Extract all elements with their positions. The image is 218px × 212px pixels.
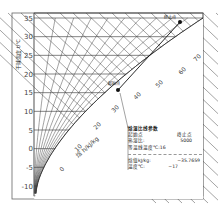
- start-point-label: 起始点: [108, 80, 120, 86]
- y-tick-label: 25: [24, 52, 33, 60]
- info-label: 等温线温度℃:: [128, 145, 160, 151]
- end-point[interactable]: [178, 20, 182, 24]
- info-label: 温度℃:: [128, 164, 145, 170]
- info-value: −35.7659: [177, 158, 200, 164]
- y-tick-label: -10: [22, 183, 33, 191]
- info-row: 温度℃: −17: [128, 164, 202, 170]
- info-value: 16: [160, 145, 166, 151]
- info-separator: [128, 154, 202, 155]
- end-point-label: 终止点: [164, 14, 176, 20]
- psychrometric-chart: -10-505101520253035 010203040506070 干球温度…: [0, 0, 218, 212]
- y-tick-label: 15: [24, 89, 33, 97]
- info-box: 焓湿比线参数 起始点 终止点 热湿比: 5000 等温线温度℃: 16 焓值kJ…: [128, 126, 202, 170]
- y-tick-label: 0: [29, 145, 33, 153]
- start-point[interactable]: [116, 88, 120, 92]
- grid-line: [203, 13, 218, 203]
- info-value: 5000: [180, 138, 192, 144]
- y-tick-label: -5: [26, 164, 33, 172]
- y-tick-label: 20: [24, 71, 33, 79]
- y-tick-label: 10: [24, 108, 33, 116]
- y-tick-label: 35: [24, 15, 33, 23]
- info-value: −17: [168, 164, 178, 170]
- y-tick-label: 30: [24, 33, 33, 41]
- info-row: 等温线温度℃: 16: [128, 145, 202, 151]
- y-tick-label: 5: [29, 127, 33, 135]
- y-axis-label: 干球温度 t/℃: [15, 39, 22, 70]
